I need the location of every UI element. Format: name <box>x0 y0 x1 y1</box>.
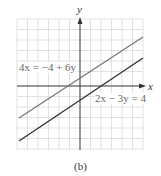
figure: y x 4x = −4 + 6y 2x − 3y = 4 (b) <box>0 0 161 176</box>
equation-label-upper: 4x = −4 + 6y <box>18 62 77 73</box>
x-axis-arrow-icon <box>139 84 146 89</box>
y-axis-label: y <box>77 4 82 15</box>
coordinate-plane <box>0 0 161 176</box>
x-axis-label: x <box>148 81 153 92</box>
figure-caption: (b) <box>0 160 161 172</box>
y-axis-arrow-icon <box>78 17 83 24</box>
equation-label-lower: 2x − 3y = 4 <box>94 93 147 104</box>
